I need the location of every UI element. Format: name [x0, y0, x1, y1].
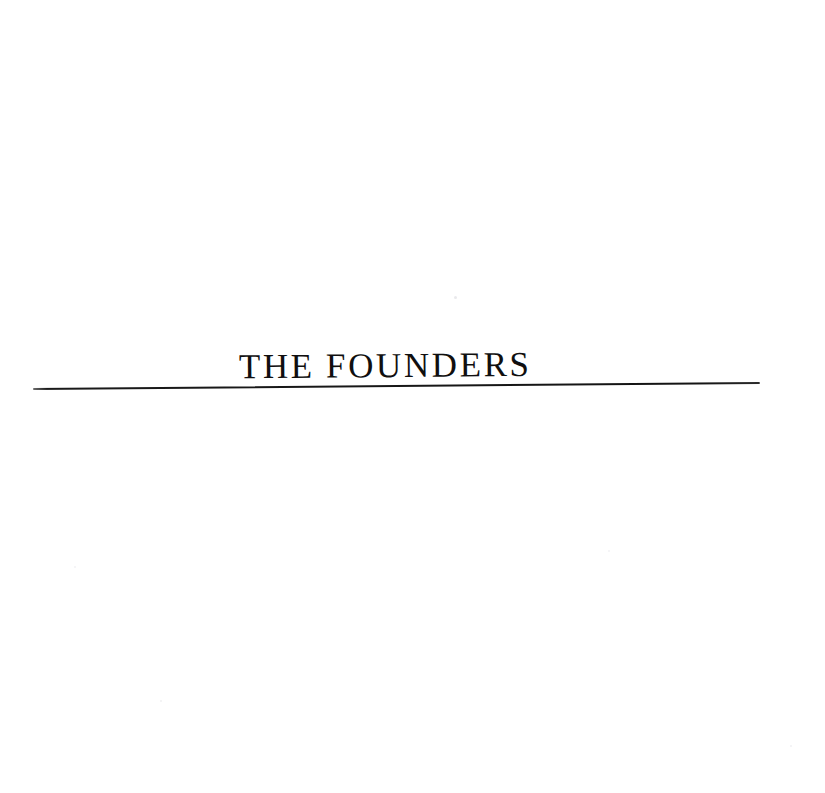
scanned-page: THE FOUNDERS — [0, 0, 825, 793]
scan-speck — [160, 700, 162, 702]
scan-speck — [74, 566, 76, 568]
scan-speck — [790, 745, 792, 747]
section-title-block: THE FOUNDERS — [32, 320, 760, 390]
scan-speck — [454, 296, 457, 299]
page-title: THE FOUNDERS — [239, 347, 532, 384]
paper-background — [0, 0, 825, 793]
scan-speck — [608, 550, 610, 552]
